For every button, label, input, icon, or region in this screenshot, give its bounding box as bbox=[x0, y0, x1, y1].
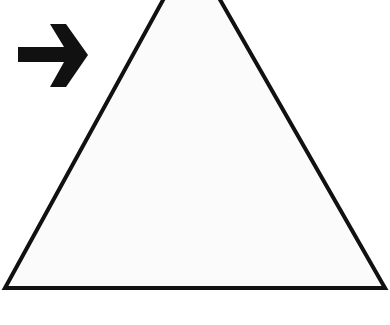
diagram-canvas bbox=[0, 0, 390, 325]
arrow-right-icon bbox=[18, 24, 88, 87]
